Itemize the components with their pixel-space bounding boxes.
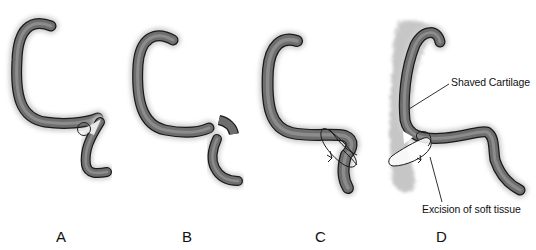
cartilage-shaved [404, 33, 520, 190]
upper-cartilage-segment [138, 36, 209, 132]
panel-label-d: D [436, 228, 447, 245]
cartilage-reconstructed [268, 40, 352, 188]
panel-c [268, 40, 357, 188]
panel-label-a: A [56, 228, 66, 245]
panel-b [138, 36, 238, 181]
panel-a [17, 24, 107, 173]
shaved-cartilage-leader-line [409, 84, 449, 109]
excised-wedge-segment [219, 120, 234, 134]
panel-label-c: C [315, 228, 326, 245]
excision-leader-line [430, 157, 442, 202]
lower-cartilage-segment [213, 139, 238, 181]
panel-d [389, 20, 520, 202]
excision-soft-tissue-label: Excision of soft tissue [422, 203, 521, 215]
panel-label-b: B [182, 228, 192, 245]
shaved-cartilage-label: Shaved Cartilage [451, 76, 530, 88]
upper-cartilage-segment [17, 24, 98, 124]
